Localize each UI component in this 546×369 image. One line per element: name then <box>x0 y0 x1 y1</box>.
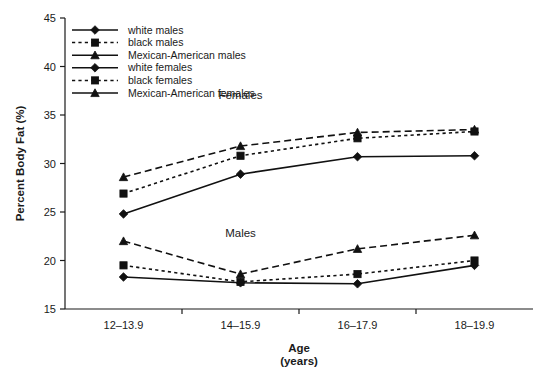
data-point <box>470 151 479 160</box>
legend-marker-square <box>91 39 98 46</box>
data-point <box>119 237 127 245</box>
legend-label: black males <box>128 36 183 48</box>
series-white-males <box>119 261 479 288</box>
y-tick-label: 30 <box>44 158 56 170</box>
y-tick-label: 15 <box>44 303 56 315</box>
legend-label: Mexican-American males <box>128 49 246 61</box>
legend-item[interactable]: white males <box>72 24 183 36</box>
chart-canvas: 1520253035404512–13.914–15.916–17.918–19… <box>0 0 546 369</box>
legend-label: Mexican-American females <box>128 87 255 99</box>
data-point <box>353 152 362 161</box>
legend-label: black females <box>128 74 192 86</box>
data-point <box>353 279 362 288</box>
legend-item[interactable]: black males <box>72 36 183 48</box>
series-path <box>124 265 475 283</box>
y-tick-label: 20 <box>44 255 56 267</box>
axes-layer: 1520253035404512–13.914–15.916–17.918–19… <box>14 12 533 367</box>
y-axis-title: Percent Body Fat (%) <box>14 106 26 222</box>
series-path <box>124 156 475 214</box>
x-axis-title-sub: (years) <box>280 355 318 367</box>
legend-marker-square <box>91 77 98 84</box>
data-point <box>119 273 128 282</box>
data-point <box>119 210 128 219</box>
group-annotation: Males <box>225 227 256 239</box>
annotation-layer: FemalesMales <box>218 89 262 239</box>
y-tick-label: 35 <box>44 109 56 121</box>
legend-item[interactable]: black females <box>72 74 192 86</box>
x-tick-label: 16–17.9 <box>338 319 378 331</box>
data-point <box>237 278 244 285</box>
x-tick-label: 18–19.9 <box>455 319 495 331</box>
legend-layer: white malesblack malesMexican-American m… <box>72 24 255 99</box>
y-tick-label: 40 <box>44 61 56 73</box>
data-point <box>471 257 478 264</box>
data-point <box>237 152 244 159</box>
y-tick-label: 45 <box>44 12 56 24</box>
legend-item[interactable]: Mexican-American males <box>72 49 246 61</box>
data-point <box>236 170 245 179</box>
series-path <box>124 261 475 282</box>
series-mexican-american-males <box>119 231 478 278</box>
series-path <box>124 131 475 193</box>
legend-item[interactable]: white females <box>72 61 192 73</box>
legend-marker-diamond <box>91 64 100 73</box>
data-point <box>120 262 127 269</box>
legend-label: white males <box>127 24 183 36</box>
x-tick-label: 14–15.9 <box>221 319 261 331</box>
x-tick-label: 12–13.9 <box>104 319 144 331</box>
x-axis-title: Age <box>288 342 310 354</box>
series-path <box>124 130 475 178</box>
series-white-females <box>119 151 479 218</box>
series-layer <box>119 125 479 288</box>
legend-label: white females <box>127 61 192 73</box>
legend-item[interactable]: Mexican-American females <box>72 87 255 99</box>
data-point <box>354 270 361 277</box>
legend-marker-diamond <box>91 26 100 35</box>
body-fat-by-age-chart: 1520253035404512–13.914–15.916–17.918–19… <box>0 0 546 369</box>
series-black-females <box>120 128 478 197</box>
series-path <box>124 235 475 274</box>
y-tick-label: 25 <box>44 206 56 218</box>
data-point <box>120 190 127 197</box>
